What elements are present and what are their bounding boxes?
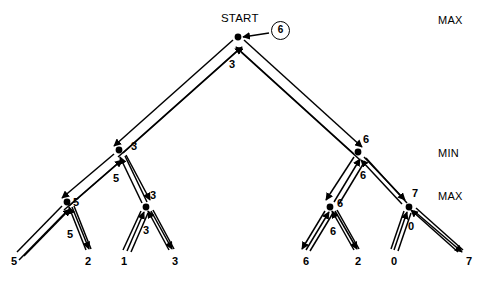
result-badge: 6 <box>271 21 290 40</box>
min-left-child-note: 5 <box>113 173 119 184</box>
leaf-value: 0 <box>391 256 397 267</box>
max-rl-child-note: 6 <box>330 226 336 237</box>
max-ll-child-note: 5 <box>67 229 73 240</box>
max-ll-value: 5 <box>73 197 79 208</box>
start-label: START <box>221 13 259 25</box>
leaf-value: 2 <box>85 256 91 267</box>
max-rl-value: 6 <box>337 198 343 209</box>
level-label-max-bottom: MAX <box>438 191 463 202</box>
game-tree-figure: START 6 MAX MIN MAX 3 3 6 5 6 5 3 6 7 5 … <box>0 0 492 282</box>
max-rr-value: 7 <box>412 188 418 199</box>
level-label-max-top: MAX <box>438 15 463 26</box>
leaf-value: 2 <box>355 256 361 267</box>
min-left-value: 3 <box>131 141 137 152</box>
leaf-value: 7 <box>466 256 472 267</box>
leaf-value: 3 <box>172 256 178 267</box>
root-backed-up-value: 3 <box>229 59 235 70</box>
leaf-value: 1 <box>121 256 127 267</box>
leaf-value: 6 <box>303 256 309 267</box>
max-lr-child-note: 3 <box>143 225 149 236</box>
min-right-value: 6 <box>363 134 369 145</box>
leaf-value: 5 <box>11 256 17 267</box>
min-right-child-note: 6 <box>360 170 366 181</box>
tree-edges-and-arrows <box>0 0 492 282</box>
max-rr-child-note: 0 <box>408 221 414 232</box>
level-label-min: MIN <box>438 148 459 159</box>
max-lr-value: 3 <box>150 190 156 201</box>
